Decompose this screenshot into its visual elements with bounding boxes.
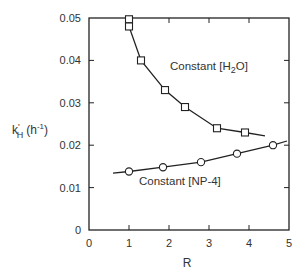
circle-marker [125,168,132,175]
circle-marker [159,164,166,171]
series-markers [125,16,276,175]
circle-marker [233,150,240,157]
x-tick-label: 2 [166,237,172,249]
y-tick-label: 0 [75,224,81,236]
y-tick-label: 0.01 [60,182,81,194]
y-tick-label: 0.05 [60,12,81,24]
chart: 01234500.010.020.030.040.05 Constant [H2… [0,0,304,279]
y-tick-label: 0.03 [60,97,81,109]
plot-frame [89,18,289,230]
series-label-h2o: Constant [H2O] [170,60,248,75]
square-marker [162,87,169,94]
series-line-1 [113,141,287,173]
series-label-np4: Constant [NP-4] [139,175,221,187]
x-tick-label: 4 [246,237,252,249]
plot-frame-rect [89,18,289,230]
y-axis-label: k'H(h-1) [12,122,48,140]
x-tick-label: 1 [126,237,132,249]
square-marker [126,23,133,30]
square-marker [126,16,133,23]
y-tick-label: 0.02 [60,139,81,151]
square-marker [138,57,145,64]
square-marker [242,129,249,136]
x-axis-label: R [183,256,192,270]
series-lines [113,19,287,173]
y-tick-label: 0.04 [60,54,81,66]
x-tick-label: 0 [86,237,92,249]
series-line-0 [129,19,265,136]
x-tick-label: 5 [286,237,292,249]
circle-marker [197,159,204,166]
circle-marker [269,142,276,149]
x-tick-label: 3 [206,237,212,249]
axis-ticks [89,18,289,230]
square-marker [214,125,221,132]
axis-tick-labels: 01234500.010.020.030.040.05 [60,12,292,249]
square-marker [182,104,189,111]
